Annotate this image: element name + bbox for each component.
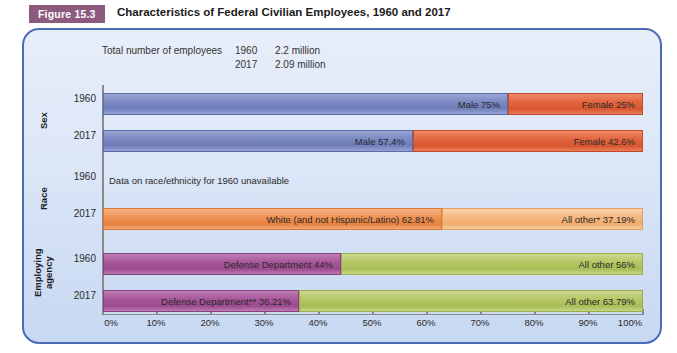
bar-row-sex-1960: Male 75% Female 25%	[103, 93, 643, 115]
bar-label-female-2017: Female 42.6%	[414, 136, 642, 147]
totals-value-1960: 2.2 million	[275, 44, 320, 58]
bar-segment-defense-2017: Defense Department** 36.21%	[103, 290, 299, 312]
bar-segment-defense-1960: Defense Department 44%	[103, 253, 341, 275]
group-label-race: Race	[38, 170, 49, 228]
row-year-label: 1960	[62, 253, 96, 264]
figure-number-badge: Figure 15.3	[29, 5, 105, 23]
totals-row: Total number of employees19602.2 million	[102, 44, 326, 58]
bar-label-male-2017: Male 57.4%	[104, 136, 412, 147]
bar-row-agency-2017: Defense Department** 36.21% All other 63…	[103, 290, 643, 312]
x-axis-tick-label: 90%	[578, 317, 597, 328]
bar-row-sex-2017: Male 57.4% Female 42.6%	[103, 130, 643, 152]
group-label-employing-agency-text: Employing agency	[32, 249, 54, 298]
bar-segment-white-2017: White (and not Hispanic/Latino) 62.81%	[103, 208, 442, 230]
totals-block: Total number of employees19602.2 million…	[102, 44, 326, 72]
x-axis-tick-label: 10%	[146, 317, 165, 328]
bar-segment-male-1960: Male 75%	[103, 93, 508, 115]
totals-label: Total number of employees	[102, 44, 235, 58]
bar-label-defense-1960: Defense Department 44%	[104, 259, 340, 270]
totals-year-1960: 1960	[235, 44, 275, 58]
bar-segment-male-2017: Male 57.4%	[103, 130, 413, 152]
totals-value-2017: 2.09 million	[275, 58, 326, 72]
bar-row-race-1960: Data on race/ethnicity for 1960 unavaila…	[103, 171, 643, 193]
totals-year-2017: 2017	[235, 58, 275, 72]
figure-title: Characteristics of Federal Civilian Empl…	[117, 6, 451, 18]
bar-label-allother-agency-1960: All other 56%	[342, 259, 642, 270]
plot-area: 0% 10% 20% 30% 40% 50% 60% 70% 80% 90% 1…	[102, 85, 642, 315]
group-label-sex: Sex	[38, 92, 49, 150]
bar-segment-female-1960: Female 25%	[508, 93, 643, 115]
bar-label-white-2017: White (and not Hispanic/Latino) 62.81%	[104, 214, 441, 225]
x-axis-tick-label: 100%	[618, 317, 642, 328]
row-year-label: 2017	[62, 290, 96, 301]
bar-label-defense-2017: Defense Department** 36.21%	[104, 296, 298, 307]
row-year-label: 2017	[62, 130, 96, 141]
x-axis-tick-label: 40%	[308, 317, 327, 328]
chart-panel: Total number of employees19602.2 million…	[22, 28, 662, 344]
x-axis-tick-label: 70%	[470, 317, 489, 328]
bar-segment-female-2017: Female 42.6%	[413, 130, 643, 152]
bar-label-male-1960: Male 75%	[104, 99, 507, 110]
bar-row-race-2017: White (and not Hispanic/Latino) 62.81% A…	[103, 208, 643, 230]
bar-segment-allother-2017-agency: All other 63.79%	[299, 290, 643, 312]
bar-label-allother-race-2017: All other* 37.19%	[443, 214, 642, 225]
group-label-employing-agency: Employing agency	[32, 242, 52, 304]
x-axis-tick-label: 20%	[200, 317, 219, 328]
x-axis-tick-label: 30%	[254, 317, 273, 328]
row-year-label: 1960	[62, 93, 96, 104]
row-year-label: 2017	[62, 208, 96, 219]
x-axis-tick-label: 0%	[104, 317, 118, 328]
totals-row: 20172.09 million	[102, 58, 326, 72]
figure-header: Figure 15.3 Characteristics of Federal C…	[0, 0, 677, 28]
bar-segment-allother-1960: All other 56%	[341, 253, 643, 275]
bar-label-allother-agency-2017: All other 63.79%	[300, 296, 642, 307]
x-axis-tick-label: 60%	[416, 317, 435, 328]
y-axis-line	[102, 85, 104, 315]
bar-label-female-1960: Female 25%	[509, 99, 642, 110]
x-axis-tick-label: 50%	[362, 317, 381, 328]
race-1960-unavailable-note: Data on race/ethnicity for 1960 unavaila…	[109, 175, 289, 186]
bar-segment-allother-2017: All other* 37.19%	[442, 208, 643, 230]
bar-row-agency-1960: Defense Department 44% All other 56%	[103, 253, 643, 275]
row-year-label: 1960	[62, 171, 96, 182]
x-axis-tick-label: 80%	[524, 317, 543, 328]
